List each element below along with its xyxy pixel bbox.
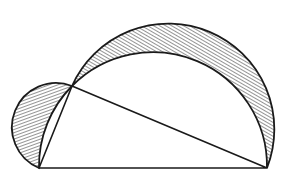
right-triangle xyxy=(39,86,267,168)
diagram-svg xyxy=(0,0,292,178)
large-lune xyxy=(72,24,274,168)
small-lune xyxy=(12,83,72,168)
lunes-diagram: Lunes of Hippocrates xyxy=(0,0,292,178)
